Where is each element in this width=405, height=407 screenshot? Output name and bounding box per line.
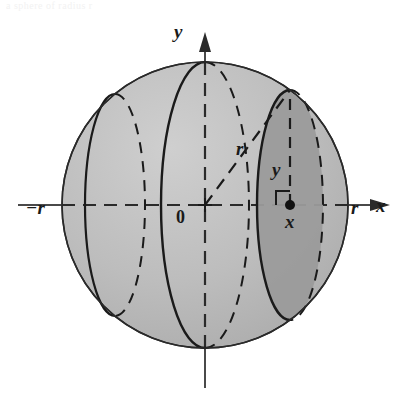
- y-axis-arrowhead: [199, 32, 211, 52]
- marked-point-x: [285, 200, 295, 210]
- x-point-label: x: [285, 212, 295, 231]
- positive-r-label: r: [351, 198, 358, 217]
- origin-label: 0: [176, 208, 185, 226]
- radius-label: r: [236, 139, 243, 158]
- y-axis-label: y: [174, 22, 182, 41]
- x-axis-label: x: [376, 196, 386, 215]
- height-label: y: [272, 160, 280, 179]
- sphere-diagram-svg: [0, 0, 405, 407]
- negative-r-label: −r: [26, 198, 45, 217]
- figure-container: a sphere of radius r: [0, 0, 405, 407]
